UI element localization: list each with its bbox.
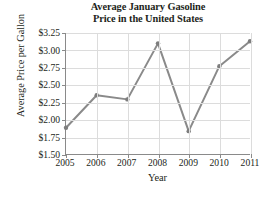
chart-title-line-1: Average January Gasoline (58, 1, 238, 13)
y-axis-tick (62, 103, 66, 104)
y-axis-tick (62, 138, 66, 139)
plot-area: 2005: $1.882006: $2.352007: $2.292008: $… (65, 33, 250, 155)
y-axis-tick-label: $2.25 (38, 98, 60, 108)
x-axis-tick-label: 2011 (241, 158, 260, 168)
y-axis-tick (62, 33, 66, 34)
y-axis-tick-label: $2.00 (38, 115, 60, 125)
y-axis-tick-label: $1.75 (38, 133, 60, 143)
x-axis-tick-label: 2009 (179, 158, 198, 168)
x-axis-tick-label: 2005 (55, 158, 74, 168)
y-axis-tick-label: $2.50 (38, 80, 60, 90)
chart-title-line-2: Price in the United States (58, 13, 238, 25)
x-axis-tick-label: 2008 (148, 158, 167, 168)
x-axis-tick-label: 2010 (210, 158, 229, 168)
y-axis-tick (62, 68, 66, 69)
y-axis-tick (62, 120, 66, 121)
gridline-vertical (220, 33, 221, 154)
y-axis-tick (62, 50, 66, 51)
y-axis-tick-label: $3.25 (38, 28, 60, 38)
y-axis-tick-label: $2.75 (38, 63, 60, 73)
gridline-vertical (251, 33, 252, 154)
gasoline-price-line-chart: Average January Gasoline Price in the Un… (0, 0, 269, 198)
gridline-vertical (159, 33, 160, 154)
y-axis-tick-label: $3.00 (38, 46, 60, 56)
gridline-vertical (97, 33, 98, 154)
x-axis-tick-label: 2007 (117, 158, 136, 168)
gridline-vertical (128, 33, 129, 154)
y-axis-tick-labels: $3.25$3.00$2.75$2.50$2.25$2.00$1.75$1.50 (0, 33, 60, 155)
x-axis-tick-labels: 2005200620072008200920102011 (65, 158, 250, 172)
plot-inner: 2005: $1.882006: $2.352007: $2.292008: $… (66, 33, 250, 154)
y-axis-tick (62, 85, 66, 86)
gridline-vertical (189, 33, 190, 154)
x-axis-title: Year (65, 172, 250, 183)
data-point-marker: 2005: $1.88 (64, 126, 68, 130)
x-axis-tick-label: 2006 (86, 158, 105, 168)
chart-title: Average January Gasoline Price in the Un… (58, 1, 238, 25)
